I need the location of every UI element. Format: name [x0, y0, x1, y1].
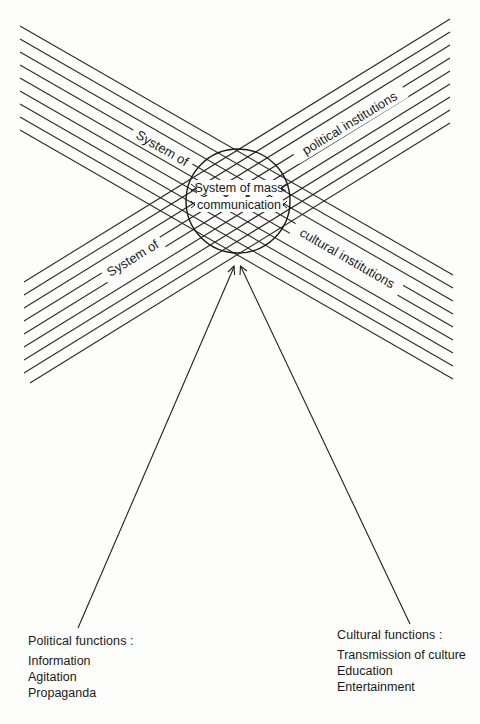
political-function-item: Propaganda — [28, 685, 134, 701]
political-functions-block: Political functions : Information Agitat… — [28, 634, 134, 701]
political-functions-title: Political functions : — [28, 634, 134, 648]
upper-right-band-label: political institutions — [300, 88, 401, 158]
cultural-function-item: Transmission of culture — [337, 647, 466, 663]
political-function-item: Information — [28, 653, 134, 669]
center-label-line2: communication — [197, 198, 281, 212]
scanned-page: System of mass communication System of p… — [0, 0, 480, 724]
cultural-functions-title: Cultural functions : — [337, 628, 466, 642]
upper-left-label-group: System of — [129, 125, 196, 173]
cultural-functions-arrow — [240, 266, 410, 624]
cultural-functions-block: Cultural functions : Transmission of cul… — [337, 628, 466, 695]
cultural-functions-list: Transmission of culture Education Entert… — [337, 647, 466, 695]
upper-right-label-group: political institutions — [291, 83, 408, 164]
mass-communication-diagram: System of mass communication System of p… — [0, 0, 480, 724]
center-label-line1: System of mass — [195, 181, 284, 195]
political-functions-list: Information Agitation Propaganda — [28, 653, 134, 701]
cultural-function-item: Entertainment — [337, 679, 466, 695]
political-function-item: Agitation — [28, 669, 134, 685]
political-functions-arrow — [78, 266, 235, 628]
cultural-function-item: Education — [337, 663, 466, 679]
lower-right-label-group: cultural institutions — [289, 221, 404, 297]
lower-left-band-label: System of — [104, 236, 161, 279]
